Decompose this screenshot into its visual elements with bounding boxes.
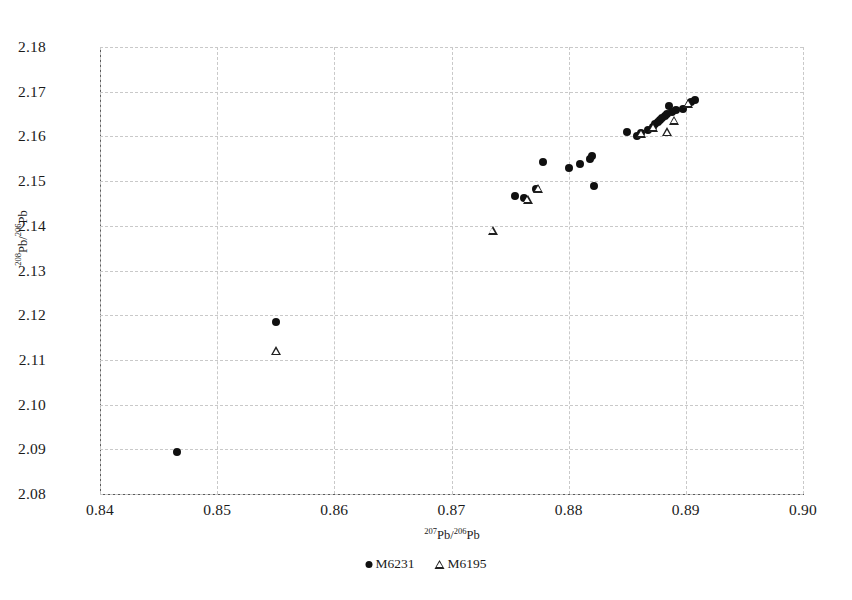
y-tick-label: 2.09 <box>18 441 46 457</box>
data-point-m6231 <box>539 158 547 166</box>
data-point-m6231 <box>173 448 181 456</box>
legend-item-m6231: M6231 <box>365 556 414 572</box>
legend-label-m6231: M6231 <box>375 556 414 572</box>
y-tick-label: 2.12 <box>18 307 46 323</box>
x-tick-label: 0.85 <box>177 502 257 518</box>
legend: M6231 M6195 <box>365 556 486 572</box>
y-tick-label: 2.10 <box>18 397 46 413</box>
x-axis-title-sup-206: 206 <box>454 526 467 536</box>
y-tick-label: 2.08 <box>18 486 46 502</box>
y-tick-label: 2.17 <box>18 84 46 100</box>
x-axis-title: 207Pb/206Pb <box>424 526 479 543</box>
gridline-horizontal <box>100 494 803 495</box>
data-point-m6231 <box>565 164 573 172</box>
data-point-m6195 <box>662 127 672 136</box>
gridline-vertical <box>569 47 570 494</box>
legend-label-m6195: M6195 <box>448 556 487 572</box>
x-tick-label: 0.89 <box>646 502 726 518</box>
x-tick-label: 0.84 <box>60 502 140 518</box>
x-axis-title-end: Pb <box>466 528 479 542</box>
data-point-m6231 <box>590 182 598 190</box>
x-tick-label: 0.90 <box>763 502 843 518</box>
y-tick-label: 2.18 <box>18 39 46 55</box>
data-point-m6231 <box>588 152 596 160</box>
x-tick-label: 0.88 <box>529 502 609 518</box>
data-point-m6195 <box>683 99 693 108</box>
data-point-m6195 <box>636 129 646 138</box>
data-point-m6231 <box>272 318 280 326</box>
data-point-m6195 <box>533 184 543 193</box>
data-point-m6195 <box>648 123 658 132</box>
scatter-plot-figure: 208Pb/206Pb 207Pb/206Pb 2.182.172.162.15… <box>0 0 852 600</box>
y-axis-title-mid: Pb/ <box>16 236 30 253</box>
data-point-m6195 <box>488 226 498 235</box>
data-point-m6195 <box>271 346 281 355</box>
data-point-m6231 <box>576 160 584 168</box>
y-tick-label: 2.15 <box>18 173 46 189</box>
gridline-vertical <box>217 47 218 494</box>
gridline-vertical <box>803 47 804 494</box>
y-tick-label: 2.14 <box>18 218 46 234</box>
x-axis-title-mid: Pb/ <box>437 528 454 542</box>
y-tick-label: 2.13 <box>18 263 46 279</box>
data-point-m6195 <box>523 195 533 204</box>
x-tick-label: 0.86 <box>294 502 374 518</box>
plot-area <box>100 47 803 494</box>
x-axis-title-sup-207: 207 <box>424 526 437 536</box>
filled-circle-icon <box>365 561 372 568</box>
gridline-vertical <box>686 47 687 494</box>
gridline-vertical <box>100 47 101 494</box>
x-tick-label: 0.87 <box>412 502 492 518</box>
gridline-vertical <box>452 47 453 494</box>
open-triangle-icon <box>435 560 445 569</box>
data-point-m6231 <box>511 192 519 200</box>
y-tick-label: 2.16 <box>18 128 46 144</box>
data-point-m6195 <box>669 116 679 125</box>
gridline-vertical <box>334 47 335 494</box>
legend-item-m6195: M6195 <box>435 556 487 572</box>
data-point-m6231 <box>623 128 631 136</box>
y-tick-label: 2.11 <box>19 352 46 368</box>
